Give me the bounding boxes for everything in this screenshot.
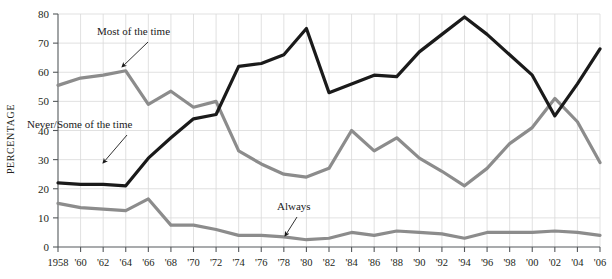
x-tick-label: '60: [74, 257, 86, 268]
x-tick-label: '76: [255, 257, 267, 268]
x-tick-label: '62: [97, 257, 109, 268]
x-tick-label: '02: [549, 257, 561, 268]
x-tick-label: '96: [481, 257, 493, 268]
x-tick-label: '78: [278, 257, 290, 268]
chart-canvas: 01020304050607080 1958'60'62'64'66'68'70…: [0, 0, 612, 279]
y-tick-label: 70: [38, 37, 50, 49]
x-tick-label: '06: [594, 257, 606, 268]
x-tick-label: '68: [165, 257, 177, 268]
y-tick-label: 30: [38, 154, 50, 166]
x-tick-label: '88: [391, 257, 403, 268]
x-tick-label: '72: [210, 257, 222, 268]
annotation-label-never-some-of-the-time: Never/Some of the time: [27, 118, 133, 130]
chart-background: [0, 0, 612, 279]
x-tick-label: '92: [436, 257, 448, 268]
x-tick-label: '66: [142, 257, 154, 268]
y-tick-label: 80: [38, 8, 50, 20]
x-tick-label: '98: [503, 257, 515, 268]
y-tick-label: 10: [38, 212, 50, 224]
x-tick-label: '80: [300, 257, 312, 268]
x-tick-label: '90: [413, 257, 425, 268]
x-tick-label: '64: [120, 257, 133, 268]
x-tick-label: '84: [345, 257, 358, 268]
annotation-label-always: Always: [277, 200, 311, 212]
y-axis-title: PERCENTAGE: [5, 104, 16, 174]
x-tick-label: '00: [526, 257, 538, 268]
line-chart: 01020304050607080 1958'60'62'64'66'68'70…: [0, 0, 612, 279]
x-tick-label: '94: [458, 257, 471, 268]
y-tick-label: 50: [38, 95, 50, 107]
x-tick-label: '70: [187, 257, 199, 268]
y-tick-label: 20: [38, 183, 50, 195]
y-tick-label: 60: [38, 66, 50, 78]
annotation-label-most-of-the-time: Most of the time: [97, 25, 170, 37]
y-tick-label: 0: [44, 241, 50, 253]
x-tick-label: '04: [571, 257, 584, 268]
x-tick-label: '74: [232, 257, 245, 268]
x-tick-label: '86: [368, 257, 380, 268]
x-tick-label: 1958: [48, 257, 69, 268]
x-tick-label: '82: [323, 257, 335, 268]
